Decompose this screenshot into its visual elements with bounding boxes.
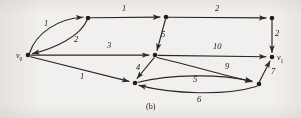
edge-weight-d-f: 9 [225,62,229,71]
edge-f-v1 [260,61,271,82]
node-d [153,53,158,58]
edge-weight-b-c: 2 [215,4,219,13]
edge-weight-f-e: 6 [197,95,201,104]
node-label-v1: v1 [277,54,283,64]
edge-weight-d-v1: 10 [213,42,222,51]
edge-weight-a-v0: 2 [74,35,78,44]
node-v1 [270,55,275,60]
edge-weight-v0-d: 3 [107,41,111,50]
node-e [133,81,138,86]
edge-d-v1 [158,55,266,56]
edge-weight-v0-a: 1 [44,19,48,28]
edge-weight-d-e: 4 [136,63,140,72]
edge-a-v0 [33,20,88,53]
node-v0 [26,53,31,58]
edge-weight-e-f: 5 [193,75,197,84]
node-label-v0: v0 [16,52,22,62]
edge-weight-c-v1: 2 [275,29,279,38]
edge-weight-f-v1: 7 [271,67,275,76]
node-c [270,16,275,21]
edge-weight-v0-e: 1 [80,72,84,81]
node-f [257,82,262,87]
edge-weight-a-b: 1 [122,4,126,13]
edge-b-c [168,17,266,18]
node-label-v1-sub: 1 [281,58,284,64]
node-b [164,15,169,20]
edge-f-e [139,85,257,92]
node-label-v0-sub: 0 [20,56,23,62]
figure-container: 1 2 1 2 5 3 10 2 4 1 9 5 6 7 v0 v1 (b) [0,0,301,118]
figure-caption: (b) [146,103,155,111]
node-a [86,16,91,21]
edge-a-b [90,17,160,18]
edge-weight-b-d: 5 [161,30,165,39]
